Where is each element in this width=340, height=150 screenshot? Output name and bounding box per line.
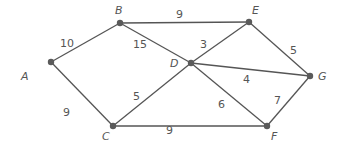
edge-d-c: [113, 63, 191, 126]
edge-weight-b-e: 9: [176, 8, 183, 21]
edge-weight-c-f: 9: [166, 124, 173, 137]
node-label-g: G: [318, 70, 327, 83]
edge-d-f: [191, 63, 267, 126]
node-a-dot: [48, 59, 54, 65]
edge-weight-d-e: 3: [200, 38, 207, 51]
node-label-a: A: [20, 70, 29, 83]
node-labels-group: ABCDEFG: [20, 4, 327, 143]
edge-weight-d-f: 6: [218, 98, 225, 111]
edge-weight-g-f: 7: [274, 94, 281, 107]
edge-e-g: [249, 22, 310, 76]
node-label-b: B: [115, 4, 123, 17]
edge-b-e: [120, 22, 249, 23]
edge-weight-e-g: 5: [290, 44, 297, 57]
edge-weight-d-c: 5: [133, 90, 140, 103]
node-e-dot: [246, 19, 252, 25]
node-d-dot: [188, 60, 194, 66]
edge-a-c: [51, 62, 113, 126]
edge-b-d: [120, 23, 191, 63]
node-label-e: E: [252, 4, 259, 17]
node-label-c: C: [102, 130, 110, 143]
node-g-dot: [307, 73, 313, 79]
edge-weight-d-g: 4: [243, 73, 250, 86]
edge-weight-a-c: 9: [63, 106, 70, 119]
node-label-f: F: [271, 130, 278, 143]
weighted-graph-diagram: 1099153456579 ABCDEFG: [0, 0, 340, 150]
edge-d-g: [191, 63, 310, 76]
node-b-dot: [117, 20, 123, 26]
node-c-dot: [110, 123, 116, 129]
nodes-group: [48, 19, 313, 129]
edges-group: [51, 22, 310, 126]
edge-weight-b-d: 15: [133, 38, 147, 51]
edge-weight-a-b: 10: [60, 37, 74, 50]
node-label-d: D: [170, 57, 178, 70]
node-f-dot: [264, 123, 270, 129]
